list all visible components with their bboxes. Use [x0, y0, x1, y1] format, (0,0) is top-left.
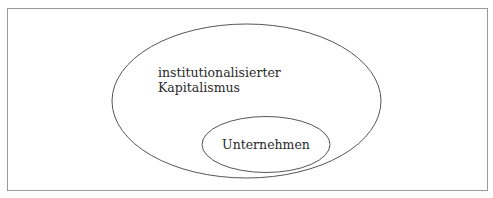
- outer-set-ellipse: [112, 24, 381, 178]
- diagram-border: [8, 9, 488, 191]
- outer-set-label-line2: Kapitalismus: [158, 80, 240, 95]
- inner-set-label: Unternehmen: [222, 137, 310, 152]
- diagram-canvas: institutionalisierter Kapitalismus Unter…: [0, 0, 493, 198]
- outer-set-label-line1: institutionalisierter: [158, 65, 281, 80]
